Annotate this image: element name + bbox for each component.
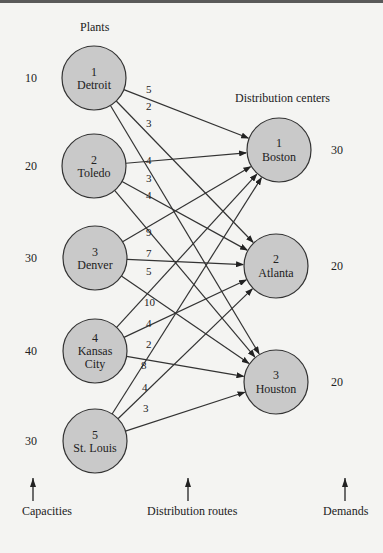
plant-name: City [85, 357, 106, 371]
plant-name: Toledo [77, 166, 110, 180]
plants-header: Plants [80, 20, 110, 34]
center-node: 3Houston [244, 350, 308, 414]
demands-label: Demands [323, 504, 369, 518]
route-cost: 5 [146, 265, 152, 277]
plant-node: 3Denver [63, 226, 127, 290]
center-demand: 20 [331, 375, 343, 389]
plant-node: 4KansasCity [63, 319, 127, 383]
center-number: 2 [273, 252, 279, 266]
center-demand: 30 [331, 143, 343, 157]
route-cost: 4 [142, 381, 148, 393]
route-cost: 7 [146, 247, 152, 259]
plant-node: 5St. Louis [63, 409, 127, 473]
plant-name: Denver [77, 258, 112, 272]
route-cost: 3 [146, 172, 152, 184]
center-name: Houston [256, 382, 297, 396]
route-edge [122, 181, 247, 250]
route-cost: 5 [146, 83, 152, 95]
plant-number: 3 [92, 245, 98, 259]
route-edge [124, 280, 246, 337]
route-edge [123, 167, 251, 242]
route-cost-labels: 5234349751042843 [141, 83, 156, 414]
center-node: 2Atlanta [244, 234, 308, 298]
plant-name: St. Louis [73, 441, 117, 455]
center-node: 1Boston [247, 118, 311, 182]
distribution-centers-header: Distribution centers [235, 91, 330, 105]
route-cost: 2 [146, 100, 152, 112]
plant-capacity: 10 [25, 71, 37, 85]
plant-number: 5 [92, 428, 98, 442]
plant-capacity: 20 [25, 159, 37, 173]
route-edge [121, 276, 248, 363]
center-name: Boston [262, 150, 296, 164]
plant-node: 1Detroit [62, 46, 126, 110]
route-cost: 10 [144, 296, 156, 308]
center-nodes: 1Boston302Atlanta203Houston20 [244, 118, 343, 414]
plant-name: Detroit [77, 78, 112, 92]
distribution-routes-label: Distribution routes [147, 504, 238, 518]
center-number: 1 [276, 136, 282, 150]
route-edge [126, 153, 246, 163]
route-edges [110, 90, 261, 431]
center-name: Atlanta [258, 266, 294, 280]
route-cost: 4 [146, 154, 152, 166]
plant-name: Kansas [78, 344, 113, 358]
route-edge [110, 105, 259, 353]
route-edge [127, 259, 243, 264]
route-cost: 4 [146, 189, 152, 201]
route-cost: 4 [146, 317, 152, 329]
plant-number: 4 [92, 331, 98, 345]
route-edge [124, 90, 248, 138]
plant-nodes: 1Detroit102Toledo203Denver304KansasCity4… [25, 46, 127, 473]
center-demand: 20 [331, 259, 343, 273]
route-edge [116, 101, 253, 242]
plant-capacity: 40 [25, 344, 37, 358]
plant-number: 2 [91, 153, 97, 167]
plant-node: 2Toledo [62, 134, 126, 198]
plant-capacity: 30 [25, 434, 37, 448]
transportation-network-diagram: Plants Distribution centers 523434975104… [0, 0, 383, 553]
route-cost: 3 [143, 402, 149, 414]
route-cost: 3 [146, 117, 152, 129]
plant-capacity: 30 [25, 251, 37, 265]
plant-number: 1 [91, 65, 97, 79]
route-cost: 9 [146, 226, 152, 238]
center-number: 3 [273, 368, 279, 382]
route-cost: 2 [146, 338, 152, 350]
capacities-label: Capacities [22, 504, 72, 518]
route-cost: 8 [141, 359, 147, 371]
